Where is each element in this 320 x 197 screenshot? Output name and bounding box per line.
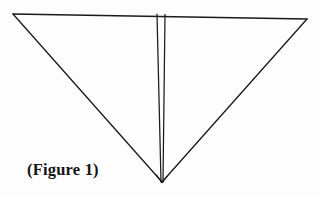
left-edge-line [13, 14, 162, 182]
interior-lines [157, 14, 165, 182]
inner-line-right [163, 14, 165, 182]
inner-line-left [157, 14, 161, 182]
figure-root: (Figure 1) [0, 0, 320, 197]
right-edge-line [162, 19, 307, 182]
top-edge-line [13, 14, 307, 19]
figure-caption: (Figure 1) [27, 160, 99, 179]
